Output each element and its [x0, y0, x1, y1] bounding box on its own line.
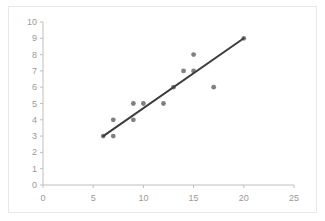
- data-point-marker: [211, 85, 216, 90]
- y-axis-tick-label: 8: [32, 50, 37, 60]
- y-axis-tick-label: 4: [32, 115, 37, 125]
- x-axis-tick-label: 5: [91, 193, 96, 203]
- data-point-marker: [141, 101, 146, 106]
- data-point-marker: [181, 69, 186, 74]
- y-axis-tick-label: 0: [32, 180, 37, 190]
- x-axis-tick-label: 10: [138, 193, 148, 203]
- y-axis-tick-label: 1: [32, 164, 37, 174]
- y-axis-tick-label: 3: [32, 131, 37, 141]
- chart-screenshot: 0123456789100510152025: [0, 0, 325, 221]
- scatter-plot-svg: 0123456789100510152025: [9, 7, 316, 212]
- data-point-marker: [131, 117, 136, 122]
- y-axis-tick-label: 6: [32, 82, 37, 92]
- y-axis-tick-label: 5: [32, 99, 37, 109]
- plot-area: 0123456789100510152025: [9, 7, 316, 212]
- data-point-marker: [161, 101, 166, 106]
- data-point-marker: [131, 101, 136, 106]
- data-point-marker: [111, 134, 116, 139]
- y-axis-tick-label: 2: [32, 147, 37, 157]
- x-axis-tick-label: 25: [289, 193, 299, 203]
- x-axis-tick-label: 0: [40, 193, 45, 203]
- trendline: [103, 38, 244, 136]
- data-point-marker: [111, 117, 116, 122]
- y-axis-tick-label: 7: [32, 66, 37, 76]
- data-point-marker: [191, 52, 196, 57]
- y-axis-tick-label: 9: [32, 33, 37, 43]
- x-axis-tick-label: 15: [189, 193, 199, 203]
- y-axis-tick-label: 10: [27, 17, 37, 27]
- x-axis-tick-label: 20: [239, 193, 249, 203]
- chart-frame: 0123456789100510152025: [8, 6, 317, 213]
